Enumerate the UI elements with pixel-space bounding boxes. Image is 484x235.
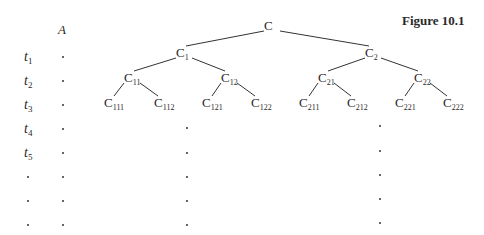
tree-diagram: Figure 10.1 A t1t2t3t4t5 CC1C2C11C12C21C…: [0, 0, 484, 235]
edge-C1-C11: [134, 58, 176, 71]
edge-C11-C111: [114, 83, 124, 96]
node-C122: C122: [251, 95, 272, 112]
row-label-dot: [27, 176, 29, 178]
row-label-1: t1: [24, 49, 32, 66]
continuation-dot: [379, 174, 381, 176]
node-C111: C111: [104, 95, 124, 112]
row-label-dot: [27, 224, 29, 226]
node-C22: C22: [414, 70, 431, 87]
column-a-dots: [62, 56, 64, 226]
row-label-3: t3: [24, 97, 33, 114]
edge-C12-C121: [212, 83, 221, 96]
node-C222: C222: [443, 95, 464, 112]
column-a-dot: [62, 80, 64, 82]
figure-title: Figure 10.1: [402, 13, 465, 28]
edge-C2-C21: [328, 58, 365, 71]
column-header-a: A: [57, 22, 66, 37]
node-C211: C211: [299, 95, 319, 112]
node-C: C: [264, 18, 273, 33]
continuation-dot: [379, 222, 381, 224]
row-label-dot: [27, 200, 29, 202]
node-C112: C112: [154, 95, 174, 112]
node-C212: C212: [347, 95, 368, 112]
node-C121: C121: [202, 95, 223, 112]
row-label-4: t4: [24, 121, 33, 138]
column-a-dot: [62, 224, 64, 226]
edge-C22-C221: [405, 83, 414, 96]
continuation-dot: [186, 224, 188, 226]
continuation-dot: [186, 200, 188, 202]
continuation-dot: [186, 127, 188, 129]
column-a-dot: [62, 128, 64, 130]
node-C221: C221: [395, 95, 416, 112]
continuation-dot: [186, 152, 188, 154]
node-C1: C1: [176, 45, 189, 62]
node-C11: C11: [124, 70, 140, 87]
node-C2: C2: [365, 45, 378, 62]
continuation-dots: [186, 125, 381, 226]
row-label-2: t2: [24, 73, 32, 90]
edge-C-C2: [280, 31, 369, 46]
column-a-dot: [62, 152, 64, 154]
row-label-5: t5: [24, 145, 33, 162]
continuation-dot: [379, 198, 381, 200]
column-a-dot: [62, 200, 64, 202]
continuation-dot: [379, 150, 381, 152]
edge-C2-C22: [381, 58, 418, 71]
column-a-dot: [62, 176, 64, 178]
row-labels: t1t2t3t4t5: [24, 49, 33, 226]
continuation-dot: [379, 125, 381, 127]
node-C12: C12: [221, 70, 238, 87]
continuation-dot: [186, 176, 188, 178]
edge-C21-C211: [309, 83, 318, 96]
tree-edges: [114, 31, 447, 96]
column-a-dot: [62, 56, 64, 58]
node-C21: C21: [318, 70, 335, 87]
column-a-dot: [62, 104, 64, 106]
edge-C-C1: [186, 31, 264, 46]
